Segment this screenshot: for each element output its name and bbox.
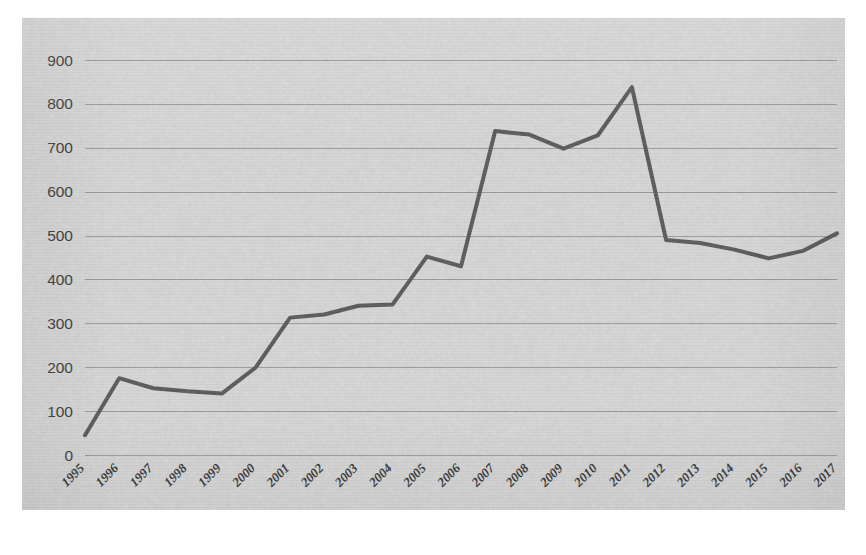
x-axis-tick-label: 2002 xyxy=(297,460,327,490)
x-axis-tick-label: 2014 xyxy=(707,460,737,490)
y-axis-tick-label: 900 xyxy=(47,52,73,69)
y-axis-tick-labels: 0100200300400500600700800900 xyxy=(47,52,73,464)
gridline-group xyxy=(85,61,837,456)
x-axis-tick-label: 2001 xyxy=(263,461,293,491)
y-axis-tick-label: 300 xyxy=(47,315,73,332)
y-axis-tick-label: 200 xyxy=(47,359,73,376)
x-axis-tick-label: 2015 xyxy=(741,460,771,490)
y-axis-tick-label: 400 xyxy=(47,271,73,288)
x-axis-tick-label: 2013 xyxy=(673,460,703,490)
y-axis-tick-label: 0 xyxy=(64,447,73,464)
x-axis-tick-label: 2007 xyxy=(468,460,498,490)
x-axis-tick-label: 2009 xyxy=(536,460,566,490)
y-axis-tick-label: 100 xyxy=(47,403,73,420)
x-axis-tick-label: 2016 xyxy=(775,460,805,490)
x-axis-tick-label: 1997 xyxy=(126,460,155,489)
x-axis-tick-label: 2006 xyxy=(433,460,463,490)
x-axis-tick-label: 2010 xyxy=(570,460,600,490)
y-axis-tick-label: 700 xyxy=(47,139,73,156)
x-axis-tick-label: 2012 xyxy=(639,460,669,490)
x-axis-tick-label: 1995 xyxy=(58,460,87,489)
x-axis-tick-label: 2017 xyxy=(809,460,839,490)
y-axis-tick-label: 500 xyxy=(47,227,73,244)
x-axis-tick-label: 1998 xyxy=(161,460,190,489)
x-axis-tick-label: 2005 xyxy=(399,460,429,490)
x-axis-tick-label: 2004 xyxy=(365,460,395,490)
y-axis-tick-label: 600 xyxy=(47,183,73,200)
x-axis-tick-label: 2000 xyxy=(228,460,258,490)
chart-page: 0100200300400500600700800900 19951996199… xyxy=(0,0,866,555)
data-series-line xyxy=(85,87,837,435)
x-axis-tick-labels: 1995199619971998199920002001200220032004… xyxy=(58,460,839,490)
line-chart-plot: 0100200300400500600700800900 19951996199… xyxy=(22,18,845,510)
x-axis-tick-label: 2011 xyxy=(605,461,634,490)
x-axis-tick-label: 2003 xyxy=(331,460,361,490)
x-axis-tick-label: 1996 xyxy=(92,460,121,489)
chart-panel: 0100200300400500600700800900 19951996199… xyxy=(22,18,845,510)
x-axis-tick-label: 2008 xyxy=(502,460,532,490)
x-axis-tick-label: 1999 xyxy=(195,460,224,489)
y-axis-tick-label: 800 xyxy=(47,95,73,112)
